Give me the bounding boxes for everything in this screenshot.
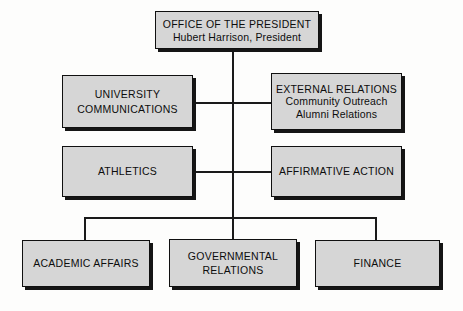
node-title-governmental-relations-line2: RELATIONS (203, 263, 264, 277)
node-subtitle-community-outreach: Community Outreach (286, 95, 388, 107)
node-title-university-communications-line1: UNIVERSITY (95, 87, 161, 101)
connector-branch-upper (192, 102, 273, 104)
org-chart-canvas: OFFICE OF THE PRESIDENT Hubert Harrison,… (0, 0, 463, 311)
node-external-relations[interactable]: EXTERNAL RELATIONS Community Outreach Al… (271, 73, 402, 130)
connector-branch-lower (192, 171, 273, 173)
node-governmental-relations[interactable]: GOVERNMENTAL RELATIONS (169, 239, 297, 287)
connector-bottom-bar (84, 217, 377, 219)
node-athletics[interactable]: ATHLETICS (62, 146, 193, 197)
node-title-governmental-relations-line1: GOVERNMENTAL (188, 249, 278, 263)
connector-drop-finance (375, 217, 377, 241)
node-academic-affairs[interactable]: ACADEMIC AFFAIRS (22, 240, 150, 287)
node-affirmative-action[interactable]: AFFIRMATIVE ACTION (271, 146, 402, 197)
connector-drop-academic-affairs (84, 217, 86, 241)
node-subtitle-alumni-relations: Alumni Relations (296, 108, 377, 120)
node-title-affirmative-action: AFFIRMATIVE ACTION (279, 165, 394, 177)
node-title-president: OFFICE OF THE PRESIDENT (163, 17, 311, 31)
node-title-external-relations: EXTERNAL RELATIONS (276, 83, 397, 95)
node-title-university-communications-line2: COMMUNICATIONS (77, 102, 178, 116)
node-title-athletics: ATHLETICS (98, 165, 157, 177)
node-title-academic-affairs: ACADEMIC AFFAIRS (33, 257, 139, 269)
node-office-of-the-president[interactable]: OFFICE OF THE PRESIDENT Hubert Harrison,… (155, 11, 319, 49)
node-university-communications[interactable]: UNIVERSITY COMMUNICATIONS (62, 75, 193, 128)
node-finance[interactable]: FINANCE (315, 240, 440, 287)
node-subtitle-president: Hubert Harrison, President (173, 31, 301, 43)
node-title-finance: FINANCE (354, 257, 402, 269)
